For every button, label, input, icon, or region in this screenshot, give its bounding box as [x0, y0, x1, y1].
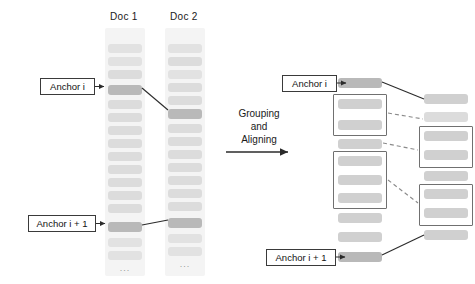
aligned-left-block-7 — [338, 213, 382, 223]
doc2-block-3 — [168, 83, 202, 92]
doc2-block-4 — [168, 96, 202, 105]
aligned-left-anchor-i — [338, 78, 382, 88]
aligned-left-block-4 — [338, 156, 382, 166]
aligned-right-block-0 — [424, 94, 468, 104]
anchor-label-right-top[interactable]: Anchor i — [282, 75, 337, 92]
doc2-block-9 — [168, 163, 202, 172]
aligned-right-block-1 — [424, 112, 468, 122]
doc1-block-0 — [108, 44, 142, 53]
doc1-block-11 — [108, 191, 142, 200]
doc1-anchor-block-i1 — [108, 222, 142, 232]
doc1-anchor-block-i — [108, 85, 142, 95]
aligned-left-anchor-i1 — [338, 252, 382, 262]
doc1-block-1 — [108, 57, 142, 66]
aligned-right-block-3 — [424, 150, 468, 160]
transform-label: Grouping and Aligning — [228, 107, 290, 146]
aligned-right-block-5 — [424, 189, 468, 199]
aligned-left-block-8 — [338, 232, 382, 242]
doc2-block-10 — [168, 176, 202, 185]
align-link-group1-to-right1 — [388, 113, 423, 119]
aligned-right-block-7 — [424, 230, 468, 240]
doc1-block-12 — [108, 204, 142, 213]
anchor-label-left-bottom[interactable]: Anchor i + 1 — [28, 215, 96, 232]
anchor-label-right-bottom-text: Anchor i + 1 — [276, 252, 327, 263]
doc1-block-2 — [108, 70, 142, 79]
doc1-block-9 — [108, 165, 142, 174]
doc2-bottom-ellipsis: ... — [165, 260, 205, 269]
doc1-block-7 — [108, 139, 142, 148]
doc2-block-8 — [168, 150, 202, 159]
align-link-anchor-i1 — [382, 235, 424, 255]
aligned-right-block-2 — [424, 131, 468, 141]
doc2-block-1 — [168, 57, 202, 66]
aligned-left-block-3 — [338, 139, 382, 149]
doc2-block-11 — [168, 189, 202, 198]
doc1-block-8 — [108, 152, 142, 161]
doc1-column: ... ... — [105, 28, 145, 276]
doc2-anchor-block-i — [168, 109, 202, 119]
doc2-block-6 — [168, 124, 202, 133]
anchor-label-right-bottom[interactable]: Anchor i + 1 — [266, 249, 336, 266]
doc1-block-5 — [108, 113, 142, 122]
doc2-anchor-block-i1 — [168, 218, 202, 228]
aligned-left-block-2 — [338, 120, 382, 130]
doc1-block-14 — [108, 238, 142, 247]
aligned-left-block-5 — [338, 175, 382, 185]
transform-label-line3: Aligning — [228, 133, 290, 146]
transform-label-line2: and — [228, 120, 290, 133]
anchor-label-right-top-text: Anchor i — [292, 78, 327, 89]
doc1-block-4 — [108, 100, 142, 109]
transform-label-line1: Grouping — [228, 107, 290, 120]
doc2-block-12 — [168, 202, 202, 211]
doc2-block-2 — [168, 70, 202, 79]
doc2-title: Doc 2 — [170, 11, 198, 22]
align-link-left3-to-group3 — [383, 143, 418, 150]
align-link-anchor-i — [382, 82, 424, 99]
doc1-title: Doc 1 — [110, 11, 138, 22]
anchor-label-left-top[interactable]: Anchor i — [40, 78, 95, 95]
doc1-block-10 — [108, 178, 142, 187]
aligned-left-block-6 — [338, 193, 382, 203]
doc1-block-6 — [108, 126, 142, 135]
align-link-group2-to-group4 — [388, 180, 418, 203]
doc2-column: ... ... — [165, 28, 205, 276]
anchor-label-left-bottom-text: Anchor i + 1 — [37, 218, 88, 229]
aligned-right-block-4 — [424, 171, 468, 181]
aligned-left-block-1 — [338, 99, 382, 109]
doc1-block-15 — [108, 251, 142, 260]
doc2-block-15 — [168, 247, 202, 256]
doc2-block-14 — [168, 234, 202, 243]
figure-canvas: Doc 1 Doc 2 ... ... ... — [0, 0, 475, 284]
anchor-label-left-top-text: Anchor i — [50, 81, 85, 92]
doc2-block-7 — [168, 137, 202, 146]
doc2-block-0 — [168, 44, 202, 53]
doc1-bottom-ellipsis: ... — [105, 264, 145, 273]
aligned-right-block-6 — [424, 208, 468, 218]
